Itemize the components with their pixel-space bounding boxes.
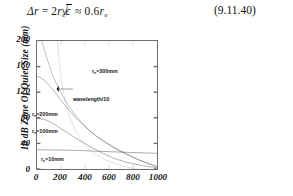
y-tick-160: 160: [0, 61, 30, 70]
equation-rhs-value: 0.6: [84, 5, 99, 17]
y-tick-120: 120: [0, 87, 30, 96]
equation-number: (9.11.40): [214, 4, 256, 16]
y-tick-200: 200: [0, 35, 30, 44]
label-re-100mm-value: =100mm: [36, 128, 57, 134]
plot-area: [36, 40, 158, 170]
y-tick-40: 40: [0, 139, 30, 148]
label-wavelength: wavelength/10: [73, 96, 109, 102]
label-re-300mm-value: =300mm: [96, 68, 117, 74]
label-re-300mm: re=300mm: [92, 68, 118, 75]
label-re-10mm-value: =10mm: [45, 156, 63, 162]
chart-figure: 10 dB Zone Of Quiet Size (mm) 200 160 12…: [0, 28, 293, 196]
curve-wavelength-over-10: [58, 41, 157, 169]
curve-re-200mm: [37, 76, 157, 167]
figure-page: Δr=2re√ϵ≈0.6re (9.11.40) 10 dB Zone Of Q…: [0, 0, 293, 196]
equation-relation-1: =: [39, 5, 52, 17]
label-re-200mm-value: =200mm: [36, 111, 57, 117]
label-re-200mm: re=200mm: [32, 111, 58, 118]
label-re-10mm: re=10mm: [41, 156, 64, 163]
equation-lhs-var: r: [34, 5, 39, 17]
equation-expression: Δr=2re√ϵ≈0.6re: [27, 4, 108, 19]
square-root-symbol: √ϵ: [66, 4, 72, 17]
label-re-100mm: re=100mm: [32, 128, 58, 135]
curve-re-300mm: [37, 41, 157, 166]
radical-hook-icon: √: [61, 5, 68, 18]
y-tick-80: 80: [0, 113, 30, 122]
plot-curves: [37, 41, 157, 169]
re300-arrow-head: [57, 86, 59, 92]
equation-row: Δr=2re√ϵ≈0.6re (9.11.40): [0, 0, 293, 30]
equation-rhs-subscript: e: [104, 11, 108, 19]
x-tick-1000: 1000: [138, 173, 178, 182]
equation-relation-2: ≈: [72, 5, 85, 17]
